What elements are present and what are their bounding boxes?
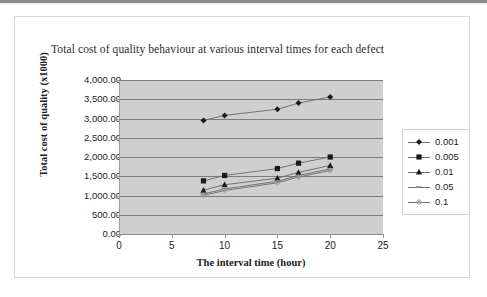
legend-item-0.001[interactable]: 0.001 bbox=[403, 135, 469, 150]
legend-marker-dash bbox=[414, 182, 424, 192]
x-axis-tick-label: 15 bbox=[262, 240, 292, 251]
data-point-diamond bbox=[200, 117, 206, 123]
plot-area bbox=[119, 80, 383, 234]
data-point-square bbox=[275, 166, 280, 171]
legend-item-0.05[interactable]: 0.05 bbox=[403, 180, 469, 195]
legend-item-0.1[interactable]: 0.1 bbox=[403, 195, 469, 210]
x-axis-tick-label: 0 bbox=[104, 240, 134, 251]
x-axis-line bbox=[119, 234, 383, 235]
series-layer bbox=[119, 80, 383, 234]
x-axis-tick-mark bbox=[277, 234, 278, 238]
data-point-square bbox=[328, 154, 333, 159]
y-axis-title: Total cost of quality (x1000) bbox=[38, 35, 49, 195]
x-axis-tick-mark bbox=[119, 234, 120, 238]
page-top-rule bbox=[0, 0, 487, 3]
data-point-star bbox=[416, 199, 422, 205]
x-axis-tick-label: 5 bbox=[157, 240, 187, 251]
y-axis-tick-label: 0.00 bbox=[53, 229, 121, 239]
legend-label: 0.005 bbox=[435, 151, 459, 162]
x-axis-tick-label: 25 bbox=[368, 240, 398, 251]
x-axis-tick-mark bbox=[225, 234, 226, 238]
y-axis-tick-label: 4,000.00 bbox=[53, 75, 121, 85]
y-axis-tick-label: 1,000.00 bbox=[53, 191, 121, 201]
x-axis-tick-mark bbox=[172, 234, 173, 238]
data-point-square bbox=[201, 178, 206, 183]
chart-legend: 0.0010.0050.010.050.1 bbox=[402, 129, 470, 215]
legend-marker-star bbox=[414, 197, 424, 207]
y-axis-tick-label: 3,000.00 bbox=[53, 114, 121, 124]
data-point-square bbox=[296, 161, 301, 166]
legend-label: 0.1 bbox=[435, 196, 448, 207]
data-point-dash bbox=[416, 186, 422, 187]
data-point-diamond bbox=[222, 112, 228, 118]
data-point-square bbox=[222, 173, 227, 178]
x-axis-tick-label: 10 bbox=[210, 240, 240, 251]
legend-marker-diamond bbox=[414, 137, 424, 147]
series-line bbox=[203, 97, 330, 120]
y-axis-tick-label: 1,500.00 bbox=[53, 171, 121, 181]
data-point-diamond bbox=[274, 106, 280, 112]
legend-item-0.01[interactable]: 0.01 bbox=[403, 165, 469, 180]
y-axis-tick-label: 500.00 bbox=[53, 210, 121, 220]
legend-marker-square bbox=[414, 152, 424, 162]
legend-label: 0.001 bbox=[435, 136, 459, 147]
data-point-diamond bbox=[327, 94, 333, 100]
y-axis-line bbox=[119, 80, 120, 235]
y-axis-tick-label: 2,000.00 bbox=[53, 152, 121, 162]
data-point-triangle bbox=[327, 162, 333, 168]
x-axis-tick-label: 20 bbox=[315, 240, 345, 251]
series-0.01 bbox=[200, 162, 333, 192]
x-axis-tick-mark bbox=[330, 234, 331, 238]
chart-title: Total cost of quality behaviour at vario… bbox=[51, 43, 451, 55]
y-axis-tick-label: 3,500.00 bbox=[53, 94, 121, 104]
legend-item-0.005[interactable]: 0.005 bbox=[403, 150, 469, 165]
legend-marker-triangle bbox=[414, 167, 424, 177]
data-point-diamond bbox=[296, 100, 302, 106]
legend-label: 0.05 bbox=[435, 181, 454, 192]
x-axis-title: The interval time (hour) bbox=[119, 257, 383, 268]
series-0.001 bbox=[200, 94, 333, 123]
data-point-square bbox=[416, 154, 421, 159]
chart-figure: Total cost of quality behaviour at vario… bbox=[14, 16, 470, 278]
series-0.05 bbox=[200, 168, 333, 194]
data-point-triangle bbox=[416, 169, 422, 175]
legend-label: 0.01 bbox=[435, 166, 454, 177]
x-axis-tick-mark bbox=[383, 234, 384, 238]
data-point-diamond bbox=[416, 139, 422, 145]
y-axis-tick-label: 2,500.00 bbox=[53, 133, 121, 143]
